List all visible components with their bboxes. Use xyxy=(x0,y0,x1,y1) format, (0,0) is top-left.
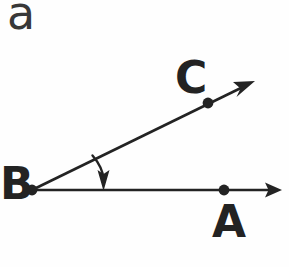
point-a-dot xyxy=(219,185,230,196)
point-b-label: B xyxy=(0,162,34,206)
ray-bc-line xyxy=(32,86,246,191)
point-a-label: A xyxy=(212,200,246,244)
part-label: a xyxy=(7,0,35,36)
point-c-label: C xyxy=(175,56,207,100)
geometry-figure: a B A C xyxy=(0,0,289,267)
